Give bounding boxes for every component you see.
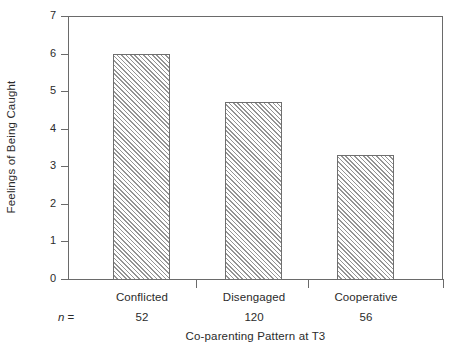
sample-size-disengaged: 120 [198,311,310,323]
y-tick-mark [61,279,68,280]
x-category-label-disengaged: Disengaged [198,291,310,303]
y-axis-line [68,16,69,280]
x-tick-mark [443,280,444,288]
y-tick-mark [61,16,68,17]
x-category-label-cooperative: Cooperative [310,291,422,303]
y-tick-label-5: 5 [40,85,56,96]
x-axis-title: Co-parenting Pattern at T3 [68,330,443,342]
y-tick-mark [61,129,68,130]
y-tick-label-1: 1 [40,235,56,246]
bar-chart-figure: Feelings of Being Caught 7 6 5 4 3 2 1 0… [0,0,457,360]
y-tick-mark [61,54,68,55]
y-tick-label-6: 6 [40,48,56,59]
y-tick-mark [61,166,68,167]
x-category-label-conflicted: Conflicted [86,291,198,303]
sample-size-cooperative: 56 [310,311,422,323]
y-tick-label-7: 7 [40,10,56,21]
x-tick-mark [196,280,197,288]
y-tick-label-4: 4 [40,123,56,134]
y-tick-mark [61,204,68,205]
y-tick-label-0: 0 [40,273,56,284]
bar-cooperative [337,155,394,280]
sample-size-prefix-equals: = [64,311,74,323]
y-tick-label-3: 3 [40,160,56,171]
y-tick-mark [61,241,68,242]
bar-disengaged [225,102,282,280]
sample-size-conflicted: 52 [86,311,198,323]
y-tick-label-2: 2 [40,198,56,209]
x-tick-mark [308,280,309,288]
y-axis-title: Feelings of Being Caught [0,16,22,279]
bar-conflicted [113,54,170,280]
y-tick-mark [61,91,68,92]
sample-size-prefix: n = [58,311,74,323]
